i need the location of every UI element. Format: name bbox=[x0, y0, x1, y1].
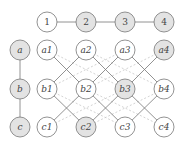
node-label: a4 bbox=[158, 45, 169, 55]
node-label: c4 bbox=[159, 122, 170, 132]
node-c: c bbox=[10, 117, 30, 137]
node-label: b2 bbox=[80, 84, 92, 94]
node-a4: a4 bbox=[154, 40, 174, 60]
node-label: b4 bbox=[158, 84, 170, 94]
node-b4: b4 bbox=[154, 79, 174, 99]
node-c1: c1 bbox=[37, 117, 57, 137]
node-4: 4 bbox=[154, 12, 174, 32]
node-b2: b2 bbox=[76, 79, 96, 99]
node-label: 3 bbox=[122, 17, 128, 27]
node-c3: c3 bbox=[115, 117, 135, 137]
node-1: 1 bbox=[37, 12, 57, 32]
node-label: a bbox=[17, 45, 22, 55]
node-label: a2 bbox=[80, 45, 91, 55]
node-label: c1 bbox=[42, 122, 53, 132]
node-label: c2 bbox=[81, 122, 92, 132]
node-b3: b3 bbox=[115, 79, 135, 99]
node-label: b1 bbox=[41, 84, 53, 94]
node-label: a3 bbox=[119, 45, 130, 55]
node-label: c3 bbox=[120, 122, 131, 132]
node-b: b bbox=[10, 79, 30, 99]
node-label: a1 bbox=[41, 45, 52, 55]
node-2: 2 bbox=[76, 12, 96, 32]
node-3: 3 bbox=[115, 12, 135, 32]
node-a3: a3 bbox=[115, 40, 135, 60]
product-graph-diagram: 1234abca1a2a3a4b1b2b3b4c1c2c3c4 bbox=[0, 0, 188, 146]
node-a2: a2 bbox=[76, 40, 96, 60]
node-a1: a1 bbox=[37, 40, 57, 60]
node-label: b bbox=[17, 84, 23, 94]
node-label: b3 bbox=[119, 84, 131, 94]
dashed-edges bbox=[47, 50, 164, 127]
node-a: a bbox=[10, 40, 30, 60]
node-label: c bbox=[17, 122, 22, 132]
solid-edges bbox=[20, 22, 164, 127]
node-label: 4 bbox=[161, 17, 167, 27]
node-label: 2 bbox=[83, 17, 89, 27]
node-c4: c4 bbox=[154, 117, 174, 137]
node-c2: c2 bbox=[76, 117, 96, 137]
node-b1: b1 bbox=[37, 79, 57, 99]
node-label: 1 bbox=[44, 17, 50, 27]
